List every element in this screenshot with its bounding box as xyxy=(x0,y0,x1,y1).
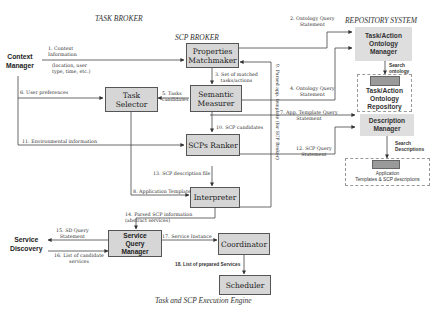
flow-11-label: 11. Environmental information xyxy=(22,139,97,145)
description-manager-box[interactable]: Description Manager xyxy=(360,114,414,136)
service-query-manager-box[interactable]: Service Query Manager xyxy=(108,230,162,257)
flow-12-label: 12. SCP Query Statement xyxy=(296,146,332,158)
search-descriptions-label: Search Descriptions xyxy=(395,141,424,153)
task-selector-box[interactable]: Task Selector xyxy=(105,87,158,112)
context-manager: Context Manager xyxy=(6,53,34,70)
semantic-measurer-box[interactable]: Semantic Measurer xyxy=(190,85,242,112)
ontology-tree-icon xyxy=(370,76,400,86)
service-discovery: Service Discovery xyxy=(10,236,43,253)
ontology-repository-label: Task/Action Ontology Repository xyxy=(358,86,411,111)
flow-9-label: 9. Parsed app. template (for SCP Broker) xyxy=(275,64,280,160)
flow-5-label: 5. Tasks candidates xyxy=(162,91,188,103)
flow-3-label: 3. Set of matched tasks/actions xyxy=(215,72,258,84)
search-ontology-label: Search ontology xyxy=(389,63,409,75)
templates-store-icon xyxy=(372,160,400,169)
flow-4-label: 4. Ontology Query Statement xyxy=(290,86,335,98)
flow-2-label: 2. Ontology Query Statement xyxy=(290,16,335,28)
flow-1-detail-label: (location, user type, time, etc.) xyxy=(52,63,90,75)
scp-broker-title: SCP BROKER xyxy=(175,33,219,42)
interpreter-box[interactable]: Interpreter xyxy=(190,187,240,208)
flow-10-label: 10. SCP candidates xyxy=(216,125,263,131)
scps-ranker-box[interactable]: SCPs Ranker xyxy=(186,134,240,156)
flow-7-label: 7. App. Template Query Statement xyxy=(280,110,338,122)
task-broker-title: TASK BROKER xyxy=(95,14,143,23)
repository-system-title: REPOSITORY SYSTEM xyxy=(345,16,417,25)
properties-matchmaker-box[interactable]: Properties Matchmaker xyxy=(186,43,239,68)
flow-6-label: 6. User preferences xyxy=(20,90,68,96)
flow-18-label: 18. List of prepared Services xyxy=(175,262,240,268)
flow-17-label: 17. Service Instance xyxy=(162,234,212,240)
scheduler-box[interactable]: Scheduler xyxy=(219,275,271,295)
coordinator-box[interactable]: Coordinator xyxy=(218,233,270,255)
templates-store-label: Application Templates & SCP descriptions xyxy=(347,171,428,183)
flow-8-label: 8. Application Template xyxy=(133,189,191,195)
flow-16-label: 16. List of candidate services xyxy=(54,253,104,265)
flow-15-label: 15. SD Query Statement xyxy=(56,228,89,240)
flow-13-label: 13. SCP description file xyxy=(153,171,210,177)
flow-14-label: 14. Parsed SCP information (abstract ser… xyxy=(125,212,192,224)
flow-1-label: 1. Context Information xyxy=(48,46,77,58)
ontology-manager-box[interactable]: Task/Action Ontology Manager xyxy=(355,27,412,61)
execution-engine-title: Task and SCP Execution Engine xyxy=(155,296,252,305)
